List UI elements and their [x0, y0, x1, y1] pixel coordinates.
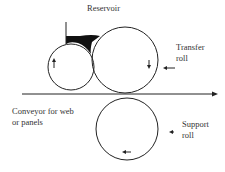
roll-coater-diagram: Reservoir Transfer roll Conveyor for web…	[0, 0, 225, 172]
transfer-roll	[92, 27, 158, 93]
support-roll-label-line2: roll	[182, 131, 194, 141]
support-roll-label-line1: Support	[182, 120, 209, 130]
transfer-roll-label-line1: Transfer	[176, 43, 205, 53]
conveyor-arrowhead	[212, 92, 218, 97]
conveyor-label-line1: Conveyor for web	[12, 107, 74, 117]
conveyor-label-line2: or panels	[12, 118, 43, 128]
reservoir-label: Reservoir	[87, 4, 120, 14]
metering-roll	[48, 44, 94, 90]
diagram-graphics	[0, 0, 225, 172]
transfer-roll-label-line2: roll	[176, 54, 188, 64]
rotation-arrow-left-icon	[122, 150, 131, 154]
support-roll	[96, 98, 158, 160]
rotation-arrow-down-icon	[147, 60, 151, 69]
rotation-arrow-up-icon	[52, 58, 56, 68]
support-roll-pointer-icon	[169, 130, 174, 134]
transfer-roll-pointer-icon	[163, 66, 175, 70]
